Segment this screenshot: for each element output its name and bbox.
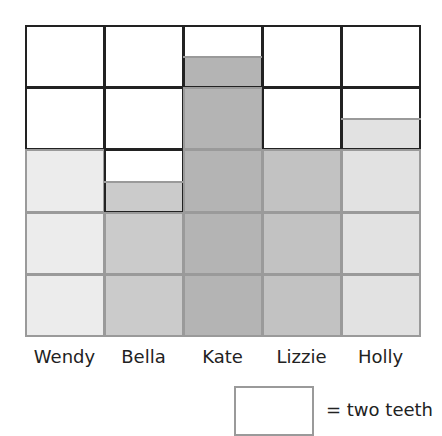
- bar-top-edge: [104, 181, 184, 183]
- category-label: Bella: [104, 346, 183, 367]
- grid-cell: [25, 25, 105, 88]
- bar-top-edge: [341, 118, 421, 120]
- grid-cell: [25, 149, 105, 212]
- grid-cell: [183, 149, 263, 212]
- grid-cell: [341, 149, 421, 212]
- grid-cell: [104, 274, 184, 337]
- legend-square-icon: [234, 386, 314, 436]
- grid-cell: [25, 87, 105, 150]
- grid-cell: [341, 25, 421, 88]
- bar-top-edge: [183, 56, 263, 58]
- grid-cell: [262, 212, 342, 275]
- grid-cell: [341, 212, 421, 275]
- grid-cell: [341, 274, 421, 337]
- grid-cell: [25, 212, 105, 275]
- grid-cell: [104, 87, 184, 150]
- category-label: Holly: [341, 346, 420, 367]
- grid-cell: [262, 274, 342, 337]
- grid-cell: [104, 212, 184, 275]
- grid-cell: [262, 149, 342, 212]
- grid-cell: [183, 212, 263, 275]
- grid-cell: [183, 87, 263, 150]
- category-label: Lizzie: [262, 346, 341, 367]
- grid-cell: [25, 274, 105, 337]
- grid-cell: [183, 274, 263, 337]
- category-label: Kate: [183, 346, 262, 367]
- grid-cell: [262, 87, 342, 150]
- category-label: Wendy: [25, 346, 104, 367]
- grid-cell: [262, 25, 342, 88]
- grid-cell: [104, 25, 184, 88]
- pictogram-chart: [25, 25, 420, 336]
- legend-text: = two teeth: [326, 399, 433, 420]
